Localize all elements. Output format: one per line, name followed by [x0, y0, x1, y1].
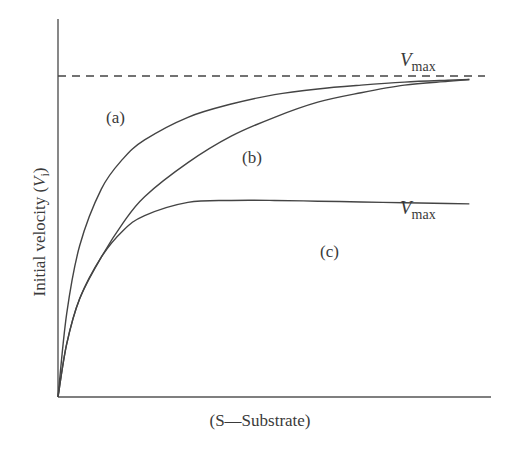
vmax-upper-label: Vmax [400, 49, 436, 74]
curve-b-label: (b) [242, 148, 262, 167]
michaelis-menten-chart: (a) (b) (c) Vmax Vmax (S—Substrate) Init… [0, 0, 516, 453]
curve-b [58, 79, 469, 397]
curve-a [58, 79, 469, 397]
curve-c-label: (c) [320, 242, 339, 261]
x-axis-title: (S—Substrate) [209, 411, 310, 430]
y-axis-title: Initial velocity (Vi) [30, 168, 52, 297]
vmax-c-label: Vmax [400, 197, 436, 222]
curve-c [58, 200, 469, 397]
curve-a-label: (a) [106, 108, 125, 127]
